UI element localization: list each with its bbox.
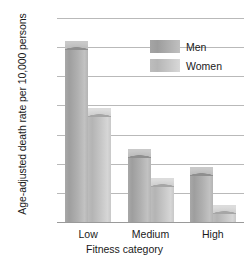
men-swatch (150, 40, 180, 53)
legend-item-men: Men (150, 38, 222, 55)
y-axis-title: Age-adjusted death rate per 10,000 perso… (16, 9, 28, 219)
x-axis-label-medium: Medium (132, 228, 169, 240)
legend-label: Women (186, 60, 222, 72)
bar-men-medium (128, 149, 151, 222)
bar-men-low (65, 41, 88, 222)
legend-item-women: Women (150, 57, 222, 74)
bar-top-cap (190, 167, 213, 176)
bar-women-medium (151, 178, 174, 222)
bar-top-cap (65, 41, 88, 50)
x-axis-title: Fitness category (0, 243, 249, 255)
x-axis-label-low: Low (79, 228, 98, 240)
bar-top-cap (88, 108, 111, 117)
bar-top-cap (151, 178, 174, 187)
bar-top-cap (128, 149, 151, 158)
x-axis-line (57, 222, 244, 223)
legend-label: Men (186, 41, 206, 53)
bar-top-cap (213, 205, 236, 214)
bar-chart: Age-adjusted death rate per 10,000 perso… (0, 0, 249, 265)
bar-women-high (213, 205, 236, 222)
bar-women-low (88, 108, 111, 222)
bar-men-high (190, 167, 213, 222)
x-axis-label-high: High (202, 228, 224, 240)
women-swatch (150, 59, 180, 72)
chart-legend: MenWomen (150, 38, 222, 76)
